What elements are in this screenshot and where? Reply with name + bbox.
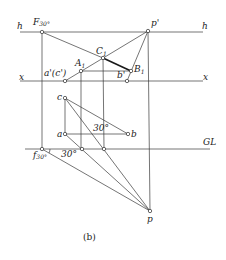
line-f30-p (42, 149, 150, 211)
label-angle-gl: 30° (61, 149, 77, 159)
point-F30 (40, 30, 43, 33)
line-c-p (65, 98, 150, 211)
label-b: b (131, 129, 137, 139)
label-bprime: b' (117, 70, 125, 80)
label-p: p (147, 214, 153, 224)
label-gl: GL (203, 137, 216, 147)
line-F30-C1 (42, 32, 103, 58)
point-aprime-cprime (63, 79, 66, 82)
point-a (63, 132, 66, 135)
vertical-C1 (103, 58, 104, 149)
label-aprime-cprime: a'(c') (44, 68, 67, 78)
perspective-construction-diagram: h h x x GL F30° p' C1 A1 B1 a'(c') b' c … (0, 0, 226, 260)
point-A1 (79, 69, 82, 72)
point-f30 (40, 147, 43, 150)
label-h-right: h (202, 21, 208, 31)
vertical-pprime-p (148, 31, 150, 211)
angle-arc-f30 (49, 149, 50, 153)
label-B1: B1 (133, 64, 144, 75)
point-bprime (125, 79, 128, 82)
label-angle-abc: 30° (93, 123, 109, 133)
point-p (148, 209, 151, 212)
point-b (126, 132, 129, 135)
label-x-right: x (203, 72, 208, 82)
label-A1: A1 (74, 58, 85, 69)
point-c (63, 96, 66, 99)
label-x-left: x (19, 72, 24, 82)
label-F30: F30° (32, 17, 50, 27)
figure-caption: (b) (83, 232, 96, 242)
point-B1 (129, 69, 132, 72)
label-a: a (57, 129, 62, 139)
label-h-left: h (17, 21, 23, 31)
point-gl-A (80, 147, 83, 150)
label-f30: f30° (32, 150, 47, 160)
label-c: c (57, 92, 62, 102)
point-gl-C (102, 147, 105, 150)
label-C1: C1 (96, 46, 107, 57)
line-a-p (65, 134, 150, 211)
label-pprime: p' (151, 18, 159, 28)
point-pprime (146, 29, 149, 32)
